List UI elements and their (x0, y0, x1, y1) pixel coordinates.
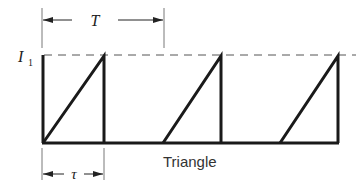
triangle-waveform-diagram: T I 1 τ Triangle (0, 0, 356, 184)
pulse-1 (43, 56, 104, 143)
pulse-3 (280, 56, 338, 143)
svg-text:I: I (17, 48, 24, 65)
period-label: T (91, 12, 101, 29)
pulse-width-dimension: τ (42, 148, 104, 182)
svg-text:1: 1 (28, 57, 33, 68)
pulse-width-label: τ (71, 166, 77, 182)
caption: Triangle (163, 153, 217, 170)
waveform-svg: T I 1 τ Triangle (0, 0, 356, 184)
pulse-2 (163, 56, 221, 143)
period-dimension: T (42, 8, 164, 48)
waveform (42, 55, 339, 143)
amplitude-label: I 1 (17, 48, 33, 68)
